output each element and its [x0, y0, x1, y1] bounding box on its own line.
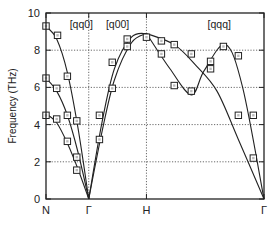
data-marker-center — [145, 36, 147, 38]
region-label: [q00] — [106, 18, 129, 30]
dispersion-curve — [146, 33, 264, 199]
data-marker-center — [56, 34, 58, 36]
region-label: [qq0] — [70, 18, 93, 30]
x-tick-label: H — [142, 204, 150, 216]
data-markers — [43, 23, 257, 174]
y-tick-label: 2 — [34, 156, 40, 168]
data-marker-center — [160, 53, 162, 55]
data-marker-center — [173, 43, 175, 45]
data-marker-center — [252, 114, 254, 116]
region-labels: [qq0][q00][qqq] — [70, 18, 231, 30]
data-marker-center — [66, 75, 68, 77]
y-tick-label: 4 — [34, 119, 40, 131]
data-marker-center — [66, 140, 68, 142]
x-tick-label: N — [42, 204, 50, 216]
data-marker-center — [98, 138, 100, 140]
data-marker-center — [76, 156, 78, 158]
y-tick-label: 0 — [34, 193, 40, 205]
data-marker-center — [98, 114, 100, 116]
phonon-dispersion-chart: 0246810 NΓHΓ [qq0][q00][qqq] Frequency (… — [0, 0, 278, 225]
y-tick-label: 8 — [34, 44, 40, 56]
data-marker-center — [55, 118, 57, 120]
dispersion-curve — [146, 33, 264, 199]
y-tick-label: 10 — [28, 7, 40, 19]
data-marker-center — [66, 114, 68, 116]
data-marker-center — [190, 53, 192, 55]
region-label: [qqq] — [208, 18, 231, 30]
data-marker-center — [111, 87, 113, 89]
data-marker-center — [222, 45, 224, 47]
data-marker-center — [126, 38, 128, 40]
x-tick-label: Γ — [261, 204, 267, 216]
data-marker-center — [111, 61, 113, 63]
y-axis-label: Frequency (THz) — [7, 68, 18, 143]
data-marker-center — [173, 84, 175, 86]
y-tick-label: 6 — [34, 81, 40, 93]
data-marker-center — [55, 87, 57, 89]
data-marker-center — [126, 45, 128, 47]
data-marker-center — [237, 114, 239, 116]
data-marker-center — [237, 55, 239, 57]
data-marker-center — [190, 90, 192, 92]
data-marker-center — [209, 68, 211, 70]
data-marker-center — [160, 40, 162, 42]
x-tick-label: Γ — [86, 204, 92, 216]
data-marker-center — [76, 120, 78, 122]
data-marker-center — [209, 60, 211, 62]
data-marker-center — [76, 169, 78, 171]
data-marker-center — [252, 157, 254, 159]
